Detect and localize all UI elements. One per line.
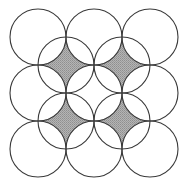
shaded-discs-group <box>0 0 188 183</box>
shaded-disc-r2-c2 <box>0 0 188 183</box>
circles-lattice-diagram <box>0 0 188 183</box>
figure-canvas <box>0 0 188 183</box>
